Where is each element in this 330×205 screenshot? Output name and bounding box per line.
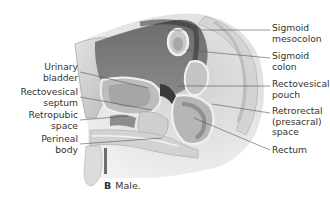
label-line: Retrorectal	[272, 106, 323, 117]
figure-caption: BMale.	[104, 180, 141, 191]
label-retrorectal-space: Retrorectal (presacral) space	[272, 106, 323, 138]
label-line: body	[41, 145, 78, 156]
label-line: Sigmoid	[272, 23, 322, 34]
label-line: mesocolon	[272, 34, 322, 45]
label-retropubic-space: Retropubic space	[28, 110, 78, 131]
label-line: Rectovesical	[272, 79, 330, 90]
label-line: bladder	[43, 73, 78, 84]
penis	[84, 146, 102, 186]
rectum	[172, 95, 214, 144]
label-line: septum	[20, 98, 78, 109]
label-rectum: Rectum	[272, 145, 307, 156]
label-line: space	[28, 121, 78, 132]
label-line: Urinary	[43, 62, 78, 73]
label-line: Rectum	[272, 145, 307, 156]
label-line: Retropubic	[28, 110, 78, 121]
label-line: colon	[272, 62, 309, 73]
label-line: pouch	[272, 90, 330, 101]
label-rectovesical-pouch: Rectovesical pouch	[272, 79, 330, 100]
label-line: Perineal	[41, 134, 78, 145]
label-sigmoid-colon: Sigmoid colon	[272, 51, 309, 72]
label-line: Sigmoid	[272, 51, 309, 62]
caption-text: Male.	[115, 180, 141, 191]
label-line: Rectovesical	[20, 87, 78, 98]
label-line: space	[272, 127, 323, 138]
label-urinary-bladder: Urinary bladder	[43, 62, 78, 83]
label-sigmoid-mesocolon: Sigmoid mesocolon	[272, 23, 322, 44]
label-rectovesical-septum: Rectovesical septum	[20, 87, 78, 108]
sigmoid-loop	[185, 61, 209, 95]
label-perineal-body: Perineal body	[41, 134, 78, 155]
caption-letter: B	[104, 180, 111, 191]
